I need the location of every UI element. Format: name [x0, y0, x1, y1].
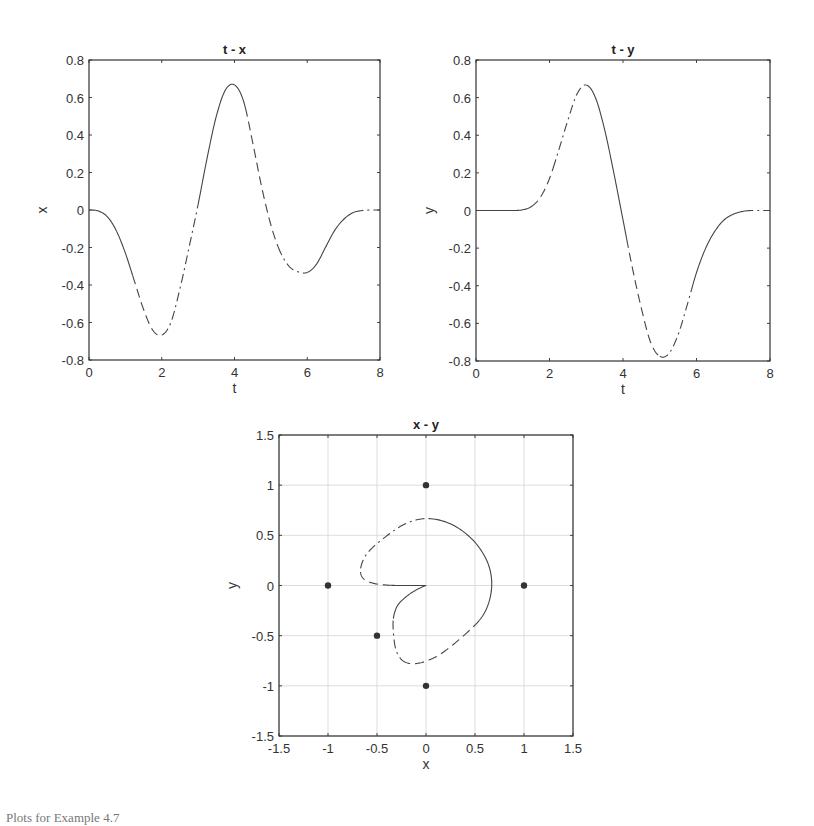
y-axis-label: y	[224, 582, 240, 589]
marker-dot	[521, 582, 527, 588]
svg-text:1: 1	[520, 741, 527, 756]
svg-text:0.2: 0.2	[453, 166, 471, 181]
svg-text:-1.5: -1.5	[252, 729, 274, 744]
svg-text:0.6: 0.6	[453, 91, 471, 106]
svg-text:-1: -1	[262, 679, 274, 694]
svg-text:0.5: 0.5	[256, 528, 274, 543]
svg-text:8: 8	[766, 366, 773, 381]
plot-x-y: -1.5-1-0.500.511.5-1.5-1-0.500.511.5x - …	[224, 417, 582, 772]
svg-text:-0.4: -0.4	[449, 279, 471, 294]
svg-text:-0.5: -0.5	[366, 741, 388, 756]
figure-caption: Plots for Example 4.7	[6, 810, 119, 826]
x-tick-labels: -1.5-1-0.500.511.5	[268, 741, 582, 756]
svg-text:0.4: 0.4	[453, 128, 471, 143]
svg-text:0: 0	[267, 579, 274, 594]
plot-t-y: 02468-0.8-0.6-0.4-0.200.20.40.60.8t - yt…	[421, 42, 774, 397]
svg-text:0: 0	[464, 204, 471, 219]
x-axis-label: x	[423, 756, 430, 772]
x-tick-labels: 02468	[472, 366, 773, 381]
svg-text:6: 6	[304, 365, 311, 380]
svg-text:4: 4	[231, 365, 238, 380]
svg-text:0.8: 0.8	[453, 53, 471, 68]
x-axis-label: t	[233, 380, 237, 396]
svg-text:-0.5: -0.5	[252, 629, 274, 644]
svg-text:-0.6: -0.6	[449, 316, 471, 331]
y-tick-labels: -0.8-0.6-0.4-0.200.20.40.60.8	[62, 53, 84, 368]
svg-text:6: 6	[693, 366, 700, 381]
y-axis-label: y	[421, 207, 437, 214]
svg-text:-0.8: -0.8	[62, 353, 84, 368]
svg-text:0.8: 0.8	[66, 53, 84, 68]
marker-dot	[374, 632, 380, 638]
y-tick-labels: -0.8-0.6-0.4-0.200.20.40.60.8	[449, 53, 471, 369]
y-axis-label: x	[34, 207, 50, 214]
chart-title: x - y	[413, 417, 440, 432]
y-tick-labels: -1.5-1-0.500.511.5	[252, 428, 274, 744]
svg-text:-0.2: -0.2	[449, 241, 471, 256]
svg-text:2: 2	[546, 366, 553, 381]
chart-title: t - x	[223, 42, 247, 57]
svg-text:8: 8	[376, 365, 383, 380]
marker-dot	[325, 582, 331, 588]
svg-text:0: 0	[422, 741, 429, 756]
svg-text:-0.2: -0.2	[62, 241, 84, 256]
svg-text:-1: -1	[322, 741, 334, 756]
svg-text:-0.4: -0.4	[62, 278, 84, 293]
svg-text:-0.6: -0.6	[62, 316, 84, 331]
svg-text:0: 0	[85, 365, 92, 380]
plot-t-x: 02468-0.8-0.6-0.4-0.200.20.40.60.8t - xt…	[34, 42, 384, 396]
svg-text:4: 4	[619, 366, 626, 381]
svg-text:-0.8: -0.8	[449, 354, 471, 369]
svg-text:2: 2	[158, 365, 165, 380]
marker-dot	[423, 482, 429, 488]
x-tick-labels: 02468	[85, 365, 383, 380]
x-axis-label: t	[621, 381, 625, 397]
svg-text:0.5: 0.5	[466, 741, 484, 756]
svg-text:1.5: 1.5	[564, 741, 582, 756]
svg-text:0: 0	[77, 203, 84, 218]
svg-text:0.4: 0.4	[66, 128, 84, 143]
marker-dot	[423, 683, 429, 689]
svg-text:1: 1	[267, 478, 274, 493]
svg-text:0.2: 0.2	[66, 166, 84, 181]
svg-text:1.5: 1.5	[256, 428, 274, 443]
chart-title: t - y	[611, 42, 635, 57]
svg-text:0.6: 0.6	[66, 91, 84, 106]
svg-text:0: 0	[472, 366, 479, 381]
